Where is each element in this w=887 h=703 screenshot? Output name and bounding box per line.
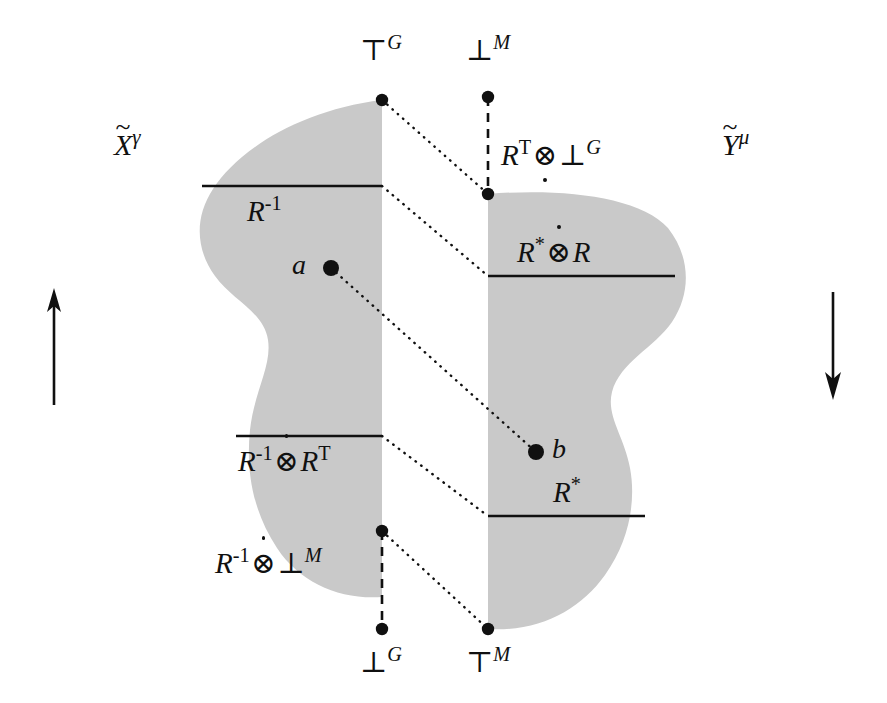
- left-upper-base: R: [247, 195, 265, 227]
- left-outside-left-superscript: -1: [233, 544, 250, 566]
- point-b-marker: [528, 444, 544, 460]
- left-blob-region: [200, 100, 382, 597]
- tensor-dot-above-icon-3: ⊗: [545, 238, 573, 267]
- tensor-dot-below-icon: ⊗: [531, 141, 559, 170]
- junction-dot-upper-right: [482, 188, 494, 200]
- right-outside-right-base: ⊥: [559, 139, 586, 171]
- point-b-label: b: [552, 435, 566, 463]
- top-left-superscript: G: [387, 31, 402, 53]
- left-domain-superscript: γ: [132, 125, 140, 149]
- left-lower-left-base: R: [238, 445, 256, 477]
- dotted-link-bottom: [382, 531, 488, 629]
- tensor-glyph-2: ⊗: [251, 547, 275, 579]
- right-lower-superscript: *: [571, 473, 581, 495]
- down-arrow: [825, 292, 841, 400]
- right-outside-right-superscript: G: [586, 136, 601, 158]
- left-outside-region-label: R-1⊗⊥M: [215, 549, 322, 578]
- left-outside-left-base: R: [215, 547, 233, 579]
- junction-dot-bottom-low: [376, 623, 388, 635]
- bottom-right-corner-label: ⊤M: [466, 648, 510, 677]
- right-upper-left-base: R: [517, 236, 535, 268]
- left-outside-right-superscript: M: [305, 544, 322, 566]
- tensor-glyph-3: ⊗: [533, 139, 557, 171]
- dotted-link-upper: [382, 186, 488, 276]
- left-lower-right-superscript: T: [318, 442, 330, 464]
- tensor-glyph-4: ⊗: [547, 236, 571, 268]
- diagram-canvas: [0, 0, 887, 703]
- right-lower-base: R: [553, 476, 571, 508]
- right-outside-left-superscript: T: [519, 136, 531, 158]
- bottom-left-corner-label: ⊥G: [360, 648, 402, 677]
- dotted-link-lower: [382, 436, 488, 516]
- tilde-accent-right: ~: [723, 113, 738, 141]
- right-outside-region-label: RT⊗⊥G: [501, 141, 601, 170]
- left-upper-region-label: R-1: [247, 197, 282, 226]
- top-down-tack-icon: ⊤: [360, 34, 387, 66]
- right-upper-region-label: R*⊗R: [517, 238, 590, 267]
- junction-dot-top-left: [376, 94, 388, 106]
- right-upper-left-superscript: *: [535, 233, 545, 255]
- right-upper-right-base: R: [573, 236, 591, 268]
- right-outside-left-base: R: [501, 139, 519, 171]
- right-domain-superscript: μ: [739, 125, 750, 149]
- down-tack-icon-bottom: ⊤: [466, 646, 493, 678]
- dotted-link-top: [382, 100, 488, 194]
- math-diagram-figure: ~Xγ ~Yμ ⊤G ⊥M ⊥G ⊤M R-1 R-1⊗RT R-1⊗⊥M RT…: [0, 0, 887, 703]
- bottom-right-superscript: M: [493, 643, 510, 665]
- left-domain-label: ~Xγ: [114, 130, 141, 160]
- junction-dot-bottom-left: [376, 525, 388, 537]
- tensor-dot-above-icon-2: ⊗: [250, 549, 278, 578]
- up-tack-icon: ⊥: [466, 34, 493, 66]
- up-arrow: [47, 288, 61, 405]
- point-a-marker: [323, 260, 339, 276]
- right-lower-region-label: R*: [553, 478, 581, 507]
- point-a-label: a: [292, 251, 306, 279]
- tensor-dot-above-icon: ⊗: [273, 447, 301, 476]
- right-domain-label: ~Yμ: [722, 130, 749, 160]
- left-upper-superscript: -1: [265, 192, 282, 214]
- left-lower-region-label: R-1⊗RT: [238, 447, 331, 476]
- junction-dot-top-right: [482, 91, 494, 103]
- tensor-glyph: ⊗: [274, 445, 298, 477]
- junction-dot-bottom-right: [482, 623, 494, 635]
- top-right-superscript: M: [493, 31, 510, 53]
- left-lower-left-superscript: -1: [256, 442, 273, 464]
- bottom-left-superscript: G: [387, 643, 402, 665]
- top-left-corner-label: ⊤G: [360, 36, 402, 65]
- left-lower-right-base: R: [300, 445, 318, 477]
- up-tack-icon-bottom: ⊥: [360, 646, 387, 678]
- tilde-accent-left: ~: [115, 113, 130, 141]
- top-right-corner-label: ⊥M: [466, 36, 510, 65]
- left-outside-right-base: ⊥: [277, 547, 304, 579]
